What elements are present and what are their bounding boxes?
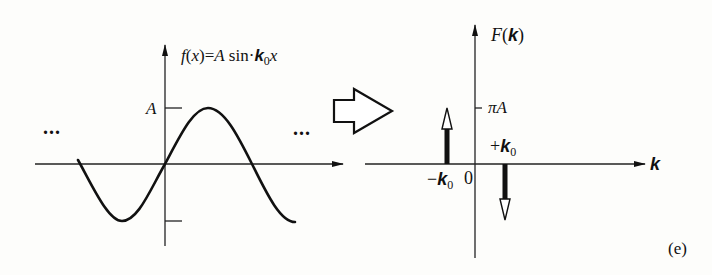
F-symbol: F: [491, 25, 502, 45]
ellipsis-right: ...: [293, 118, 311, 138]
equals: =: [205, 46, 215, 65]
ellipsis-left: ...: [43, 117, 61, 137]
y-axis-label-Fk: F(k): [491, 26, 524, 44]
k-symbol: k: [437, 169, 447, 189]
rparen: ): [518, 25, 524, 45]
plus-k0-label: +k0: [490, 137, 516, 155]
hollow-right-arrow-icon: [334, 89, 392, 133]
amplitude-label: A: [146, 100, 156, 117]
amplitude-symbol: A: [214, 46, 224, 65]
k-subscript: 0: [510, 145, 516, 159]
k-subscript: 0: [264, 54, 270, 68]
k-subscript: 0: [447, 178, 453, 192]
k-symbol: k: [500, 136, 510, 156]
k-symbol: k: [254, 46, 263, 65]
diagram-canvas: [0, 0, 712, 275]
panel-tag: (e): [668, 240, 687, 257]
minus-k0-label: −k0: [427, 170, 453, 188]
tick-label-pi-a: πA: [488, 99, 507, 116]
A-symbol: A: [497, 98, 507, 117]
plus-sign: +: [490, 136, 500, 156]
k-symbol: k: [508, 25, 518, 45]
var-x: x: [270, 46, 278, 65]
x-axis-label-k: k: [650, 155, 660, 173]
impulse-down-arrow-icon: [500, 164, 510, 220]
x-symbol: x: [191, 46, 199, 65]
pi-symbol: π: [488, 98, 497, 117]
minus-sign: −: [427, 169, 437, 189]
function-label: f(x)=A sin·k0x: [181, 47, 277, 64]
origin-label: 0: [464, 169, 473, 187]
sine-curve: [78, 108, 295, 222]
impulse-up-arrow-icon: [442, 108, 452, 164]
sin-text: sin: [225, 46, 249, 65]
